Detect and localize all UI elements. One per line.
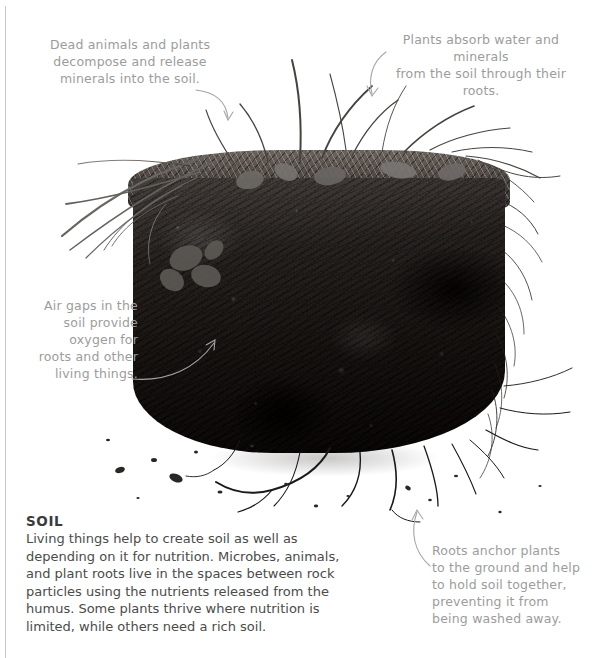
annotation-dead-animals: Dead animals and plants decompose and re… [40, 36, 220, 87]
caption-title: SOIL [26, 513, 346, 529]
annotation-roots-anchor: Roots anchor plants to the ground and he… [432, 542, 592, 627]
soil-crumbs [106, 439, 542, 514]
root-hairs-right [480, 200, 542, 478]
roots-below [186, 368, 572, 522]
annotation-air-gaps: Air gaps in the soil provide oxygen for … [18, 297, 138, 382]
leaf-cluster [156, 159, 468, 296]
caption-body: Living things help to create soil as wel… [26, 530, 346, 636]
caption-block: SOIL Living things help to create soil a… [26, 513, 346, 636]
page-root: Dead animals and plants decompose and re… [0, 0, 598, 658]
annotation-plants-absorb: Plants absorb water and minerals from th… [378, 31, 584, 99]
